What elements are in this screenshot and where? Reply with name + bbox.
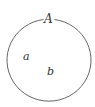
- set-diagram: A a b: [0, 0, 95, 107]
- element-a: a: [23, 50, 30, 63]
- set-a-label: A: [43, 12, 53, 26]
- set-a-circle: [7, 20, 91, 102]
- element-b: b: [47, 65, 54, 78]
